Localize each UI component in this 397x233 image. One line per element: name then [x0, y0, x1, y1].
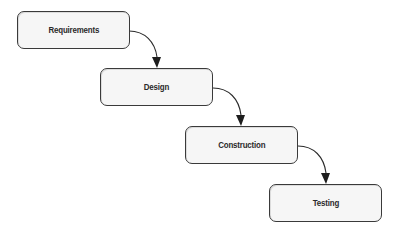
step-construction: Construction	[185, 126, 298, 164]
step-design: Design	[100, 68, 213, 106]
arrowhead-requirements-to-design	[152, 57, 161, 68]
arrowhead-design-to-construction	[236, 115, 245, 126]
step-testing: Testing	[269, 184, 382, 222]
arrowhead-construction-to-testing	[321, 173, 330, 184]
arrow-requirements-to-design	[129, 31, 157, 57]
arrow-construction-to-testing	[298, 146, 326, 173]
step-label: Construction	[218, 140, 265, 150]
arrow-design-to-construction	[213, 88, 241, 115]
step-label: Testing	[312, 198, 338, 208]
step-label: Requirements	[48, 25, 99, 35]
step-label: Design	[144, 82, 169, 92]
step-requirements: Requirements	[17, 11, 130, 49]
